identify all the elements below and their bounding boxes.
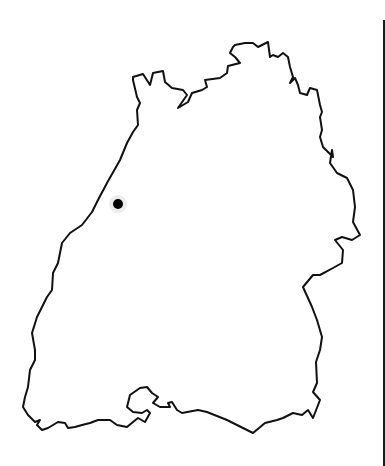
region-map <box>0 0 385 466</box>
region-outline <box>23 42 360 433</box>
map-canvas <box>0 0 385 466</box>
location-marker[interactable] <box>113 199 123 209</box>
